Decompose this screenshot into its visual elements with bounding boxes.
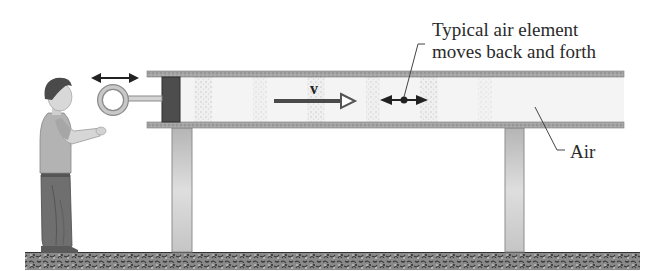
person (40, 78, 106, 253)
annotation-line-2: moves back and forth (432, 40, 596, 64)
velocity-label: v (310, 80, 318, 98)
back-and-forth-arrow-icon (91, 73, 139, 83)
tube-support-legs (172, 128, 524, 252)
compression-band (194, 77, 212, 122)
handle-ring (100, 87, 126, 113)
annotation-line-1: Typical air element (432, 18, 578, 42)
ground (25, 252, 640, 270)
piston (162, 77, 180, 122)
compression-band (253, 77, 267, 122)
tube-top-wall (147, 71, 624, 77)
air-label: Air (570, 140, 595, 164)
tube-bottom-wall (147, 122, 624, 128)
compression-band (366, 77, 380, 122)
right-leg (505, 128, 524, 252)
piston-rod (124, 96, 162, 101)
left-leg (172, 128, 192, 252)
compression-band (478, 77, 492, 122)
